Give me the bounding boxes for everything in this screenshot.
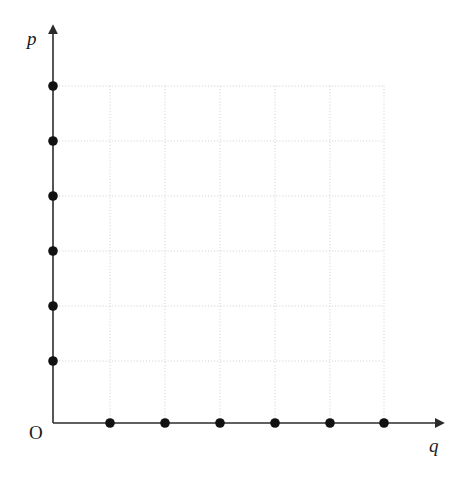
- origin-label: O: [29, 423, 43, 442]
- data-point: [105, 418, 115, 428]
- axes: [53, 32, 437, 423]
- x-axis-label: q: [429, 436, 439, 455]
- plot-canvas: [0, 0, 463, 482]
- data-point: [160, 418, 170, 428]
- y-axis-label: p: [27, 29, 37, 48]
- data-point: [325, 418, 335, 428]
- data-point: [270, 418, 280, 428]
- data-point: [48, 301, 58, 311]
- data-point: [379, 418, 389, 428]
- data-points: [48, 81, 389, 428]
- data-point: [48, 246, 58, 256]
- data-point: [48, 191, 58, 201]
- data-point: [215, 418, 225, 428]
- grid-lines: [53, 86, 384, 423]
- coordinate-figure: p q O: [0, 0, 463, 482]
- data-point: [48, 81, 58, 91]
- data-point: [48, 136, 58, 146]
- data-point: [48, 356, 58, 366]
